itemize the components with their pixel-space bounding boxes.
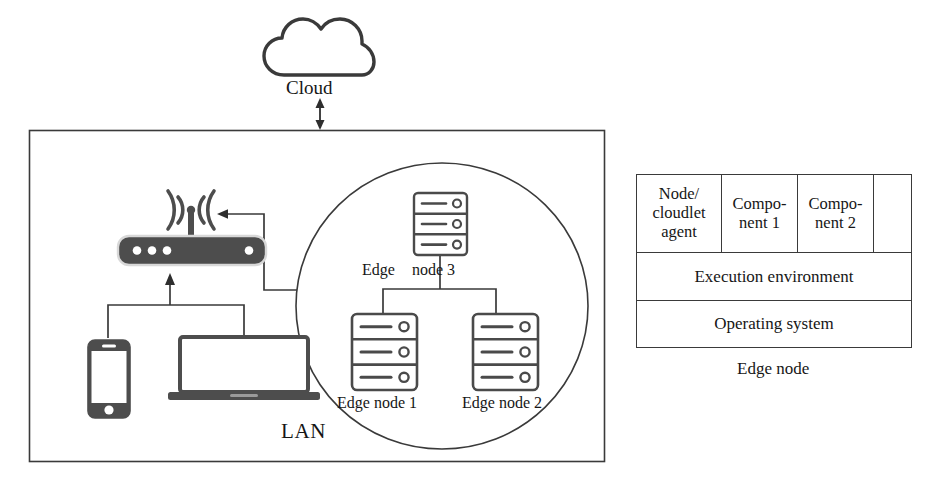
component-1-line-1: Compo- [732,195,786,214]
stack-cell-component-1: Compo- nent 1 [722,175,798,252]
cloud-label: Cloud [286,78,332,98]
edge-node-2-label: Edge node 2 [462,395,542,412]
stack-row-components: Node/ cloudlet agent Compo- nent 1 Compo… [637,175,911,253]
cloud-icon [264,19,374,75]
stack-row-execution-environment: Execution environment [637,253,911,301]
edge-node-3-label-part2: node 3 [412,262,455,279]
agent-line-3: agent [652,223,705,242]
bidirectional-arrow-icon [316,98,325,130]
edge-node-stack-table: Node/ cloudlet agent Compo- nent 1 Compo… [636,174,912,348]
stack-cell-blank [874,175,911,252]
edge-node-1-label: Edge node 1 [337,395,417,412]
lan-label: LAN [281,420,326,442]
stack-cell-operating-system: Operating system [637,301,911,347]
edge-node-stack-caption: Edge node [737,360,809,378]
laptop-icon [168,337,320,400]
server-rack-icon-edge-node-1 [352,314,417,390]
edge-node-3-label-part1: Edge [362,262,395,279]
server-rack-icon-edge-node-2 [473,314,538,390]
edge-computing-diagram: Cloud LAN Edge node 3 Edge node 1 Edge n… [0,0,940,492]
component-1-line-2: nent 1 [732,214,786,233]
devices-to-router-connector [108,273,244,338]
stack-cell-component-2: Compo- nent 2 [798,175,874,252]
agent-line-1: Node/ [652,185,705,204]
smartphone-icon [88,340,130,418]
agent-line-2: cloudlet [652,204,705,223]
stack-row-operating-system: Operating system [637,301,911,347]
component-2-line-2: nent 2 [808,214,862,233]
wifi-router-icon [118,191,266,265]
component-2-line-1: Compo- [808,195,862,214]
stack-cell-node-cloudlet-agent: Node/ cloudlet agent [637,175,722,252]
stack-cell-execution-environment: Execution environment [637,253,911,300]
server-rack-icon-edge-node-3 [414,193,467,255]
